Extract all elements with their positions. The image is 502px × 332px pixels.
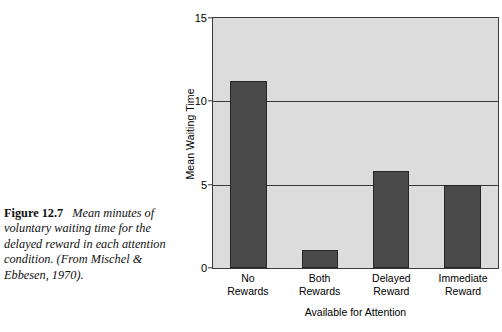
figure-caption: Figure 12.7Mean minutes of voluntary wai… <box>4 206 170 283</box>
x-category-label-line: Delayed <box>356 272 428 285</box>
y-tick-label-10: 10 <box>195 95 207 107</box>
x-axis-title: Available for Attention <box>212 306 499 318</box>
bar-series <box>213 18 498 268</box>
bar-slot <box>356 18 427 268</box>
bar[interactable] <box>444 185 480 268</box>
bar[interactable] <box>373 171 409 269</box>
bar-slot <box>213 18 284 268</box>
x-category-label-line: Rewards <box>284 285 356 298</box>
x-category-label-line: No <box>212 272 284 285</box>
x-category-label-line: Both <box>284 272 356 285</box>
bar-slot <box>427 18 498 268</box>
x-category-label-line: Immediate <box>427 272 499 285</box>
x-category-label: NoRewards <box>212 272 284 297</box>
y-tick-label-5: 5 <box>201 179 207 191</box>
x-category-label: ImmediateReward <box>427 272 499 297</box>
x-axis-category-labels: NoRewardsBothRewardsDelayedRewardImmedia… <box>212 272 499 297</box>
x-category-label: DelayedReward <box>356 272 428 297</box>
x-category-label-line: Reward <box>427 285 499 298</box>
bar-chart-figure: Mean Waiting Time 051015 NoRewardsBothRe… <box>160 0 502 332</box>
x-category-label-line: Reward <box>356 285 428 298</box>
bar-slot <box>284 18 355 268</box>
bar[interactable] <box>302 250 338 268</box>
plot-area: 051015 <box>212 17 499 269</box>
y-tick-label-0: 0 <box>201 262 207 274</box>
x-category-label: BothRewards <box>284 272 356 297</box>
y-axis-title: Mean Waiting Time <box>184 74 196 194</box>
y-tick-label-15: 15 <box>195 12 207 24</box>
figure-number: Figure 12.7 <box>4 206 63 220</box>
x-category-label-line: Rewards <box>212 285 284 298</box>
bar[interactable] <box>230 81 266 268</box>
